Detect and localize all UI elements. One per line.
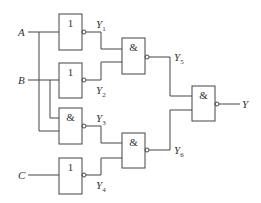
input-label-b: B [18, 75, 25, 86]
signal-label-y5: Y5 [174, 52, 184, 66]
signal-label-y6: Y6 [174, 145, 184, 159]
signal-label-y3: Y3 [96, 113, 106, 127]
output-label-y: Y [242, 99, 248, 110]
signal-label-y1: Y1 [96, 19, 106, 33]
gate-1-symbol: 1 [59, 18, 82, 29]
signal-label-y4: Y4 [96, 180, 106, 194]
logic-circuit-diagram: A B C 1 1 & 1 & & & Y1 Y2 Y3 Y4 Y5 Y6 Y [0, 0, 261, 203]
circuit-wires [0, 0, 261, 203]
gate-2-symbol: 1 [59, 67, 82, 78]
gate-6-symbol: & [122, 137, 145, 148]
gate-7-symbol: & [192, 90, 215, 101]
gate-5-symbol: & [122, 42, 145, 53]
gate-4-symbol: 1 [59, 162, 82, 173]
input-label-a: A [18, 27, 25, 38]
gate-3-symbol: & [59, 112, 82, 123]
signal-label-y2: Y2 [96, 85, 106, 99]
input-label-c: C [18, 170, 25, 181]
